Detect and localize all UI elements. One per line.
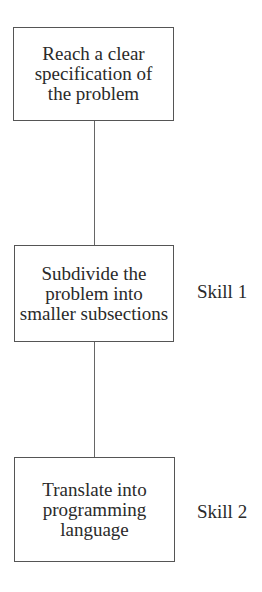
- skill-1-label: Skill 1: [197, 282, 247, 302]
- step-1-line-3: the problem: [35, 84, 153, 104]
- step-2-line-3: smaller subsections: [20, 304, 168, 324]
- step-1-line-1: Reach a clear: [35, 44, 153, 64]
- connector-2-3: [94, 342, 95, 457]
- step-3-line-1: Translate into: [42, 480, 146, 500]
- step-2-line-1: Subdivide the: [20, 264, 168, 284]
- step-3-line-2: programming: [42, 500, 146, 520]
- step-reach-specification: Reach a clear specification of the probl…: [13, 27, 174, 121]
- step-2-line-2: problem into: [20, 284, 168, 304]
- step-translate-language: Translate into programming language: [14, 457, 175, 562]
- connector-1-2: [94, 121, 95, 245]
- skill-2-label: Skill 2: [197, 502, 247, 522]
- step-1-line-2: specification of: [35, 64, 153, 84]
- step-3-line-3: language: [42, 520, 146, 540]
- step-subdivide-problem: Subdivide the problem into smaller subse…: [14, 245, 174, 342]
